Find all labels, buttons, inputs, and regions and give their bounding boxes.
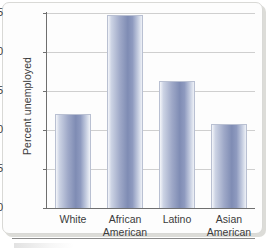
y-tick-mark [43, 13, 47, 14]
figure-page: Percent unemployed 0510152025 WhiteAfric… [0, 0, 267, 250]
y-tick-label: 0 [0, 201, 3, 213]
caption-remnant [14, 243, 74, 248]
y-axis-label: Percent unemployed [21, 41, 33, 171]
bar [211, 124, 247, 208]
x-tick-label-line1: African [109, 213, 142, 225]
x-tick-label-line1: White [60, 213, 87, 225]
bar-chart: Percent unemployed 0510152025 WhiteAfric… [0, 0, 267, 250]
x-tick-label: White [47, 213, 99, 226]
y-tick-label: 5 [0, 162, 3, 174]
gridline [47, 91, 255, 92]
x-tick-label: Latino [151, 213, 203, 226]
y-tick-label: 10 [0, 123, 3, 135]
gridline [47, 52, 255, 53]
x-axis-line [46, 208, 255, 209]
x-tick-label: AsianAmerican [203, 213, 255, 239]
x-tick-label-line1: Latino [163, 213, 192, 225]
y-tick-label: 25 [0, 6, 3, 18]
gridline [47, 13, 255, 14]
bar [55, 114, 91, 208]
y-tick-label: 15 [0, 84, 3, 96]
y-tick-mark [43, 52, 47, 53]
bar [107, 15, 143, 208]
y-tick-mark [43, 208, 47, 209]
y-tick-label: 20 [0, 45, 3, 57]
plot-area: 0510152025 WhiteAfricanAmericanLatinoAsi… [47, 13, 255, 208]
y-tick-mark [43, 130, 47, 131]
y-tick-mark [43, 91, 47, 92]
x-tick-label-line1: Asian [216, 213, 242, 225]
y-tick-mark [43, 169, 47, 170]
footer-divider [12, 238, 255, 239]
y-axis-line [46, 12, 47, 209]
bar [159, 81, 195, 208]
x-tick-label: AfricanAmerican [99, 213, 151, 239]
